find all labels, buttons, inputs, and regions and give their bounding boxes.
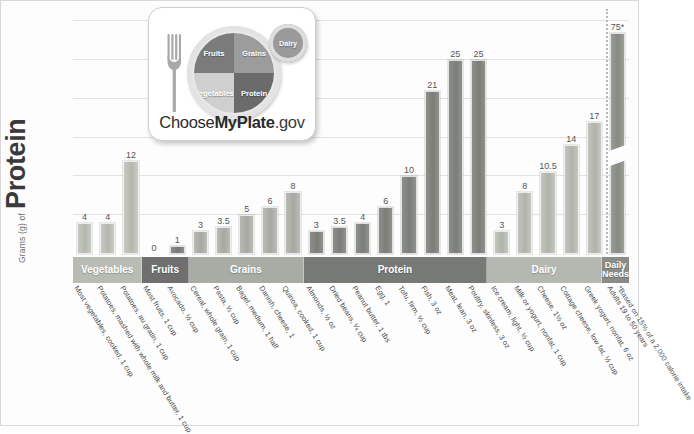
bar-slot: 10 xyxy=(397,9,420,254)
bar[interactable]: 4 xyxy=(77,223,92,254)
bar-value-label: 3.5 xyxy=(217,216,230,226)
bar-slot: 10.5 xyxy=(536,9,559,254)
bar-value-label: 10.5 xyxy=(539,161,557,171)
bar[interactable]: 3 xyxy=(309,231,324,254)
bar[interactable]: 21 xyxy=(425,91,440,254)
bar-value-label: 6 xyxy=(383,196,388,206)
bar-value-label: 1 xyxy=(175,235,180,245)
category-band-grains: Grains xyxy=(189,257,304,283)
x-axis-label: Quinoa, cooked, 1 cup xyxy=(281,284,328,352)
bar-value-label: 25 xyxy=(450,49,460,59)
x-axis-label: Egg, 1 xyxy=(373,284,392,307)
bar[interactable]: 25 xyxy=(448,60,463,254)
bar-slot: 3 xyxy=(490,9,513,254)
bar[interactable]: 25 xyxy=(471,60,486,254)
bar[interactable]: 75* xyxy=(610,33,625,254)
bar-value-label: 4 xyxy=(360,212,365,222)
bar-value-label: 21 xyxy=(427,80,437,90)
bar-slot: 6 xyxy=(374,9,397,254)
bar-slot: 3.5 xyxy=(328,9,351,254)
category-band-fruits: Fruits xyxy=(142,257,189,283)
choosemyplate-logo: Fruits Grains Vegetables Protein Dairy C… xyxy=(148,7,316,141)
bar-slot: 17 xyxy=(583,9,606,254)
bar[interactable]: 3 xyxy=(193,231,208,254)
bar-value-label: 8 xyxy=(522,181,527,191)
category-band-vegetables: Vegetables xyxy=(73,257,142,283)
bar[interactable]: 10 xyxy=(401,176,416,254)
x-axis-label: Poultry, skinless, 3 oz xyxy=(466,284,512,350)
bar[interactable]: 1 xyxy=(170,246,185,254)
x-axis-labels: Most vegetables, cooked, 1 cupPotatoes, … xyxy=(73,284,629,424)
bar-slot: 4 xyxy=(73,9,96,254)
bar[interactable]: 14 xyxy=(564,145,579,254)
brand-gov: .gov xyxy=(275,113,305,131)
bar-slot: 4 xyxy=(96,9,119,254)
bar-value-label: 3 xyxy=(198,220,203,230)
brand-choose: Choose xyxy=(159,113,214,131)
bar-value-label: 8 xyxy=(291,181,296,191)
bar-slot: 12 xyxy=(119,9,142,254)
plate-section-protein: Protein xyxy=(234,73,274,113)
y-axis-units-label: Grams (g) of xyxy=(17,213,27,263)
bar[interactable]: 8 xyxy=(517,192,532,254)
bar-value-label: 3.5 xyxy=(333,216,346,226)
bar[interactable]: 6 xyxy=(262,207,277,254)
category-band-daily-needs: DailyNeeds xyxy=(602,257,629,283)
plate-section-dairy: Dairy xyxy=(269,24,307,62)
bar-slot: 25 xyxy=(467,9,490,254)
axis-break-mark xyxy=(609,145,626,166)
bar[interactable]: 8 xyxy=(285,192,300,254)
bar[interactable]: 3.5 xyxy=(216,227,231,254)
category-bands: VegetablesFruitsGrainsProteinDairyDailyN… xyxy=(73,257,629,283)
bar-value-label: 14 xyxy=(566,134,576,144)
x-axis-label: Fish, 3 oz xyxy=(420,284,445,316)
brand-wordmark: ChooseMyPlate.gov xyxy=(149,113,315,132)
bar-value-label: 4 xyxy=(105,212,110,222)
bar-slot: 8 xyxy=(513,9,536,254)
x-axis-label: Bagel, medium, 1 half xyxy=(234,284,280,350)
fork-icon xyxy=(167,34,181,112)
bar-value-label: 0 xyxy=(152,243,157,253)
daily-needs-separator xyxy=(606,9,608,254)
bar-value-label: 5 xyxy=(244,204,249,214)
bar-slot: 4 xyxy=(351,9,374,254)
bar-value-label: 6 xyxy=(267,196,272,206)
bar-slot: 21 xyxy=(421,9,444,254)
bar-value-label: 4 xyxy=(82,212,87,222)
bar[interactable]: 10.5 xyxy=(540,172,555,254)
bar[interactable]: 4 xyxy=(355,223,370,254)
bar-value-label: 10 xyxy=(404,165,414,175)
plate-section-fruits: Fruits xyxy=(194,33,234,73)
bar[interactable]: 3.5 xyxy=(332,227,347,254)
category-band-dairy: Dairy xyxy=(487,257,602,283)
bar[interactable]: 17 xyxy=(587,122,602,254)
y-axis-title: Grams (g) of Protein xyxy=(1,1,71,271)
bar[interactable]: 3 xyxy=(494,231,509,254)
category-band-protein: Protein xyxy=(304,257,487,283)
plate-graphic: Fruits Grains Vegetables Protein xyxy=(187,26,281,120)
y-axis-main-label: Protein xyxy=(1,119,32,209)
plate-section-vegetables: Vegetables xyxy=(194,73,234,113)
bar[interactable]: 12 xyxy=(123,161,138,254)
bar[interactable]: 4 xyxy=(100,223,115,254)
bar-value-label: 17 xyxy=(589,111,599,121)
bar-value-label: 3 xyxy=(314,220,319,230)
bar-slot: 14 xyxy=(560,9,583,254)
brand-myplate: MyPlate xyxy=(214,113,274,131)
bar[interactable]: 6 xyxy=(378,207,393,254)
bar-value-label: 12 xyxy=(126,150,136,160)
bar-slot: 25 xyxy=(444,9,467,254)
plate-section-grains: Grains xyxy=(234,33,274,73)
bar-value-label: 75* xyxy=(611,22,625,32)
bar[interactable]: 5 xyxy=(239,215,254,254)
bar-slot: 75* xyxy=(606,9,629,254)
bar-value-label: 25 xyxy=(473,49,483,59)
bar-value-label: 3 xyxy=(499,220,504,230)
x-axis-label: Ice cream, light, ½ cup xyxy=(489,284,537,353)
